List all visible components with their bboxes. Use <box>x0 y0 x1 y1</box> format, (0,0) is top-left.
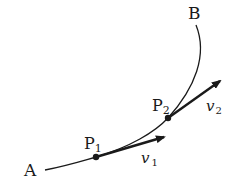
label-v1: v1 <box>141 149 158 168</box>
label-a: A <box>23 160 37 180</box>
label-b: B <box>188 3 201 23</box>
velocity-vector-v1 <box>96 137 164 157</box>
trajectory-diagram: A B P1 P2 v1 v2 <box>0 0 242 191</box>
label-p2: P2 <box>152 96 170 117</box>
label-p1: P1 <box>84 134 102 155</box>
label-v2: v2 <box>206 97 222 116</box>
